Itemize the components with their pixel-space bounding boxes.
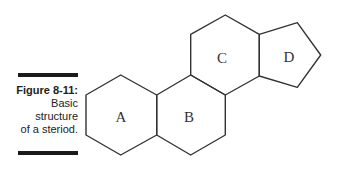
ring-b-label: B <box>184 109 194 125</box>
ring-a-label: A <box>116 109 127 125</box>
ring-d-label: D <box>284 49 295 65</box>
ring-c-label: C <box>217 50 227 66</box>
steroid-structure-diagram: A B C D <box>0 0 339 172</box>
